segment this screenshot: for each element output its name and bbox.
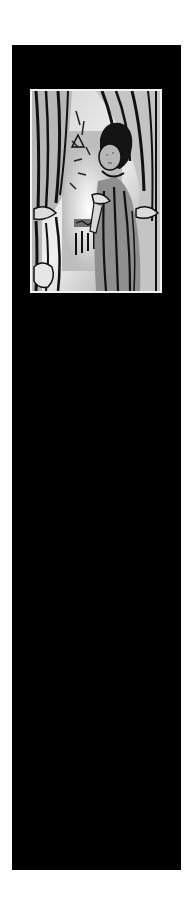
illustration-frame [30, 89, 162, 293]
dark-panel [12, 45, 181, 870]
woodcut-illustration-image [32, 91, 160, 291]
page [0, 0, 189, 899]
